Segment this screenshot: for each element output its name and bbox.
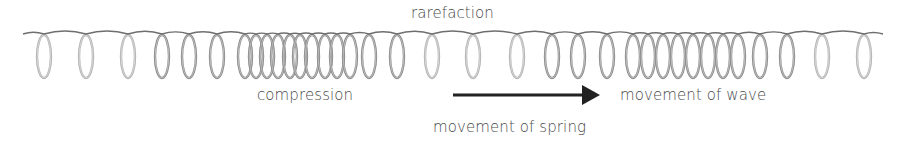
spring-coil-highlight — [121, 35, 135, 78]
spring-coil-highlight — [641, 35, 655, 78]
spring-coil-highlight — [656, 35, 670, 78]
spring-coils — [37, 35, 871, 78]
spring-coil-highlight — [571, 35, 585, 78]
spring-wire — [23, 31, 883, 34]
arrow-right-icon — [453, 85, 600, 105]
arrow-head — [582, 85, 600, 105]
spring-coil-highlight — [425, 35, 439, 78]
spring-coil-highlight — [857, 35, 871, 78]
spring-coil-highlight — [343, 35, 357, 78]
spring-coil-highlight — [182, 35, 196, 78]
spring-coil-highlight — [155, 35, 169, 78]
spring-coil-highlight — [37, 35, 51, 78]
spring-coil-highlight — [390, 35, 404, 78]
spring-coil-highlight — [671, 35, 685, 78]
spring-coil-highlight — [362, 35, 376, 78]
spring-coil-highlight — [780, 35, 794, 78]
movement-of-spring-label: movement of spring — [433, 120, 586, 135]
spring-coil-highlight — [815, 35, 829, 78]
compression-label: compression — [257, 88, 353, 103]
spring-coil-highlight — [210, 35, 224, 78]
spring-coil-highlight — [600, 35, 614, 78]
spring-coil-highlight — [753, 35, 767, 78]
spring-coil-highlight — [731, 35, 745, 78]
longitudinal-wave-diagram: rarefaction compression movement of wave… — [0, 0, 901, 142]
rarefaction-label: rarefaction — [411, 6, 494, 21]
spring-coil-highlight — [79, 35, 93, 78]
spring-coil-highlight — [686, 35, 700, 78]
spring-coil-highlight — [716, 35, 730, 78]
spring-coil-highlight — [466, 35, 480, 78]
movement-of-wave-label: movement of wave — [620, 88, 766, 103]
spring-coil-highlight — [626, 35, 640, 78]
spring-coil-highlight — [545, 35, 559, 78]
spring-coil-highlight — [510, 35, 524, 78]
spring-coil-highlight — [701, 35, 715, 78]
